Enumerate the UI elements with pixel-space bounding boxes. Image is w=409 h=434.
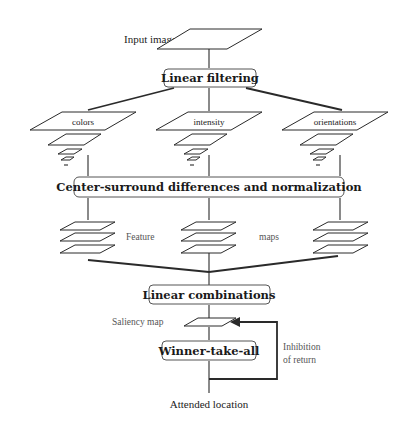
merge-left: [88, 260, 209, 272]
orientations-label: orientations: [314, 117, 357, 127]
inhibition-label-line2: of return: [283, 355, 316, 365]
linear-combinations-box: Linear combinations: [143, 285, 276, 304]
saliency-map-plane: [184, 318, 236, 326]
linear-combinations-label: Linear combinations: [143, 288, 276, 302]
linear-filtering-box: Linear filtering: [161, 69, 259, 87]
feature-maps-orientations: [313, 222, 368, 253]
attended-location-label: Attended location: [170, 398, 249, 410]
maps-label: maps: [259, 232, 279, 242]
merge-right: [209, 256, 338, 272]
orientations-pyramid: orientations: [282, 112, 388, 165]
colors-label: colors: [72, 117, 94, 127]
input-image-plane: [157, 29, 262, 49]
winner-take-all-box: Winner-take-all: [158, 341, 261, 360]
inhibition-label-line1: Inhibition: [283, 342, 321, 352]
colors-pyramid: colors: [30, 112, 136, 165]
center-surround-box: Center-surround differences and normaliz…: [56, 177, 362, 197]
feature-maps-colors: [60, 222, 115, 253]
intensity-label: intensity: [194, 117, 225, 127]
branch-orientations: [246, 88, 342, 110]
feature-label: Feature: [126, 232, 155, 242]
feature-maps-intensity: [181, 222, 236, 253]
branch-colors: [88, 88, 174, 110]
saliency-map-label: Saliency map: [112, 317, 164, 327]
center-surround-label: Center-surround differences and normaliz…: [56, 180, 362, 194]
linear-filtering-label: Linear filtering: [161, 71, 259, 85]
saliency-model-diagram: Input image Linear filtering colors inte…: [0, 0, 409, 434]
winner-take-all-label: Winner-take-all: [158, 344, 261, 358]
